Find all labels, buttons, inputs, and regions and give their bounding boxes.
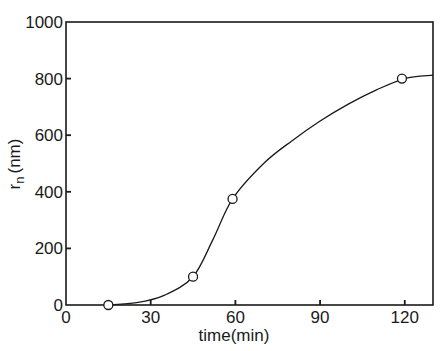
- y-tick-label: 200: [35, 239, 63, 258]
- x-tick-label: 60: [226, 308, 245, 327]
- x-axis-title: time(min): [199, 326, 270, 345]
- x-tick-label: 120: [391, 308, 419, 327]
- y-tick-label: 0: [54, 296, 63, 315]
- y-axis-tick-labels: 02004006008001000: [25, 13, 63, 315]
- y-axis-title: rn(nm): [5, 139, 27, 190]
- data-point-circle: [397, 74, 406, 83]
- y-axis-title-sub: n: [12, 177, 27, 184]
- y-tick-label: 800: [35, 70, 63, 89]
- x-axis-tick-labels: 0306090120: [61, 308, 419, 327]
- y-tick-label: 400: [35, 183, 63, 202]
- y-axis-title-unit: (nm): [5, 139, 24, 174]
- data-point-circle: [228, 194, 237, 203]
- data-point-circle: [104, 301, 113, 310]
- y-tick-label: 1000: [25, 13, 63, 32]
- plot-frame: [66, 22, 433, 305]
- data-point-markers: [104, 74, 407, 309]
- y-tick-label: 600: [35, 126, 63, 145]
- fitted-curve-line: [108, 75, 433, 305]
- chart-svg: 0306090120 02004006008001000 time(min) r…: [0, 0, 446, 351]
- x-tick-label: 90: [311, 308, 330, 327]
- axes-frame: [66, 22, 433, 305]
- x-tick-label: 30: [141, 308, 160, 327]
- svg-text:rn(nm): rn(nm): [5, 139, 27, 190]
- data-point-circle: [189, 272, 198, 281]
